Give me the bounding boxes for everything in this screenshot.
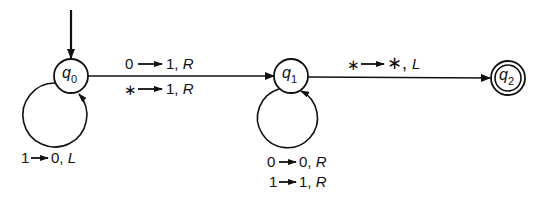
svg-text:1, R: 1, R bbox=[166, 55, 194, 72]
state-q2-accepting: q2 bbox=[491, 61, 525, 95]
state-q0-subscript: 0 bbox=[71, 73, 77, 85]
q1-self-loop bbox=[257, 89, 317, 148]
state-q2-subscript: 2 bbox=[508, 75, 514, 87]
write-symbol: 1, bbox=[166, 55, 183, 72]
read-symbol: 0 bbox=[267, 153, 275, 170]
svg-text:0, L: 0, L bbox=[51, 149, 76, 166]
write-symbol: 0, bbox=[51, 149, 68, 166]
q0-loop-label: 1 0, L bbox=[21, 149, 76, 166]
read-symbol: 1 bbox=[21, 149, 29, 166]
write-symbol: 0, bbox=[299, 153, 316, 170]
state-q0-label: q bbox=[62, 64, 71, 81]
q0-to-q1-label-2: ∗ 1, R bbox=[124, 80, 194, 98]
state-q0: q0 bbox=[54, 59, 88, 93]
read-symbol: ∗ bbox=[347, 56, 360, 73]
move-direction: R bbox=[183, 80, 194, 97]
write-symbol: 1, bbox=[166, 80, 183, 97]
q1-loop-label-2: 1 1, R bbox=[269, 173, 327, 190]
svg-text:0, R: 0, R bbox=[299, 153, 327, 170]
svg-text:1, R: 1, R bbox=[166, 80, 194, 97]
q1-to-q2-edge bbox=[308, 77, 490, 78]
move-direction: R bbox=[316, 153, 327, 170]
state-q1-subscript: 1 bbox=[291, 73, 297, 85]
state-q1-label: q bbox=[282, 64, 291, 81]
move-direction: R bbox=[316, 173, 327, 190]
state-q1: q1 bbox=[274, 59, 308, 93]
state-q2-label: q bbox=[499, 66, 508, 83]
svg-text:1, R: 1, R bbox=[299, 173, 327, 190]
read-symbol: ∗ bbox=[124, 81, 137, 98]
move-direction: L bbox=[68, 149, 76, 166]
q1-loop-label-1: 0 0, R bbox=[267, 153, 327, 170]
q1-to-q2-label: ∗ ∗, L bbox=[347, 53, 420, 73]
move-direction: R bbox=[183, 55, 194, 72]
move-direction: L bbox=[412, 55, 420, 72]
read-symbol: 1 bbox=[269, 173, 277, 190]
write-symbol: 1, bbox=[299, 173, 316, 190]
state-diagram: q0 q1 q2 0 1, R ∗ 1, R 1 0, L 0 0, R 1 1… bbox=[0, 0, 534, 205]
read-symbol: 0 bbox=[125, 55, 133, 72]
svg-text:∗, L: ∗, L bbox=[387, 53, 420, 73]
write-symbol: ∗, bbox=[387, 53, 412, 73]
q0-to-q1-label-1: 0 1, R bbox=[125, 55, 194, 72]
